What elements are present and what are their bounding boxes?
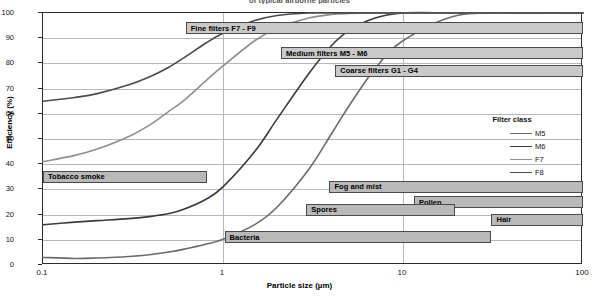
y-axis-tick-label: 60: [0, 109, 14, 118]
legend-item-label: M5: [535, 129, 551, 138]
particle-bar: Bacteria: [225, 231, 492, 243]
legend-line-swatch: [510, 172, 532, 173]
gridline-vertical: [223, 13, 224, 263]
filter-class-bar-label: Fine filters F7 - F9: [187, 24, 256, 33]
y-axis-tick-label: 20: [0, 210, 14, 219]
x-axis-tick-label: 0.1: [36, 268, 47, 277]
particle-bar-label: Hair: [492, 215, 511, 224]
legend-item-label: F7: [535, 155, 551, 164]
y-axis-title: Efficiency (%): [5, 88, 14, 158]
legend-line-swatch: [510, 146, 532, 147]
plot-area: Fine filters F7 - F9Medium filters M5 - …: [42, 12, 582, 264]
y-axis-tick-label: 50: [0, 134, 14, 143]
y-axis-tick-label: 0: [0, 260, 14, 269]
particle-bar: Hair: [491, 214, 583, 226]
gridline-horizontal: [43, 38, 581, 39]
chart-page: of typical airborne particles Efficiency…: [0, 0, 599, 298]
legend: Filter class M5M6F7F8: [473, 115, 551, 179]
particle-bar: Tobacco smoke: [43, 171, 207, 183]
legend-item-label: M6: [535, 142, 551, 151]
particle-bar: Spores: [306, 204, 455, 216]
x-axis-title: Particle size (µm): [0, 281, 599, 290]
filter-class-bar: Coarse filters G1 - G4: [335, 65, 583, 77]
y-axis-tick-label: 100: [0, 8, 14, 17]
legend-item-label: F8: [535, 168, 551, 177]
filter-class-bar: Medium filters M5 - M6: [281, 47, 583, 59]
legend-item-f8: F8: [473, 166, 551, 179]
y-axis-tick-label: 80: [0, 58, 14, 67]
gridline-horizontal: [43, 89, 581, 90]
y-axis-tick-label: 30: [0, 184, 14, 193]
x-axis-tick-label: 1: [220, 268, 224, 277]
legend-line-swatch: [510, 133, 532, 134]
y-axis-tick-label: 40: [0, 159, 14, 168]
y-axis-tick-label: 70: [0, 84, 14, 93]
particle-bar-label: Tobacco smoke: [44, 172, 105, 181]
legend-rows: M5M6F7F8: [473, 127, 551, 179]
legend-item-m6: M6: [473, 140, 551, 153]
filter-class-bar-label: Medium filters M5 - M6: [282, 49, 368, 58]
x-axis-tick-label: 100: [575, 268, 588, 277]
legend-item-m5: M5: [473, 127, 551, 140]
legend-title: Filter class: [473, 115, 551, 124]
y-axis-tick-label: 90: [0, 33, 14, 42]
legend-item-f7: F7: [473, 153, 551, 166]
y-axis-tick-label: 10: [0, 235, 14, 244]
particle-bar-label: Bacteria: [226, 233, 260, 242]
legend-line-swatch: [510, 159, 532, 160]
x-axis-tick-label: 10: [398, 268, 407, 277]
filter-class-bar: Fine filters F7 - F9: [186, 22, 583, 34]
particle-bar-label: Fog and mist: [330, 182, 381, 191]
y-axis-tick-mark: [38, 264, 42, 265]
cut-off-chart-title: of typical airborne particles: [0, 0, 599, 4]
particle-bar-label: Spores: [307, 205, 337, 214]
particle-bar: Fog and mist: [329, 181, 583, 193]
filter-class-bar-label: Coarse filters G1 - G4: [336, 66, 418, 75]
